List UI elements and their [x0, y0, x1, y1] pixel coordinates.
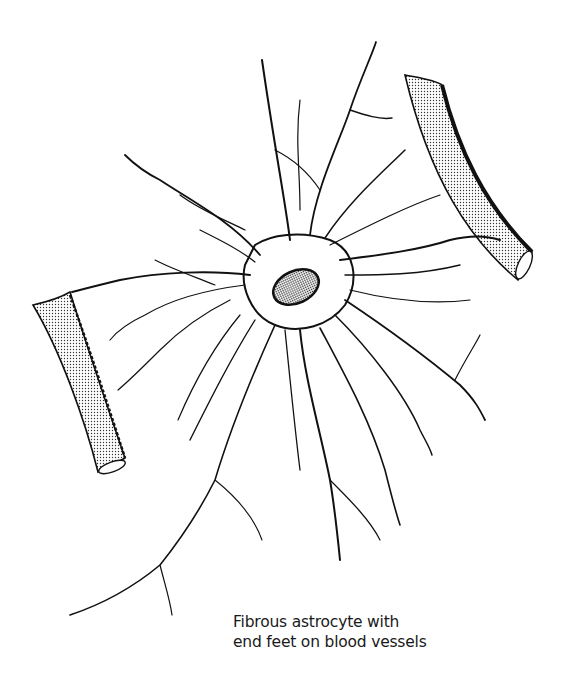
- blood-vessel-right: [405, 75, 536, 281]
- astrocyte-illustration: [0, 0, 567, 689]
- figure-caption: Fibrous astrocyte with end feet on blood…: [233, 612, 427, 652]
- blood-vessel-left: [33, 292, 127, 476]
- nucleus: [267, 262, 324, 311]
- cell-body: [244, 235, 354, 329]
- caption-line-1: Fibrous astrocyte with: [233, 612, 427, 632]
- caption-line-2: end feet on blood vessels: [233, 632, 427, 652]
